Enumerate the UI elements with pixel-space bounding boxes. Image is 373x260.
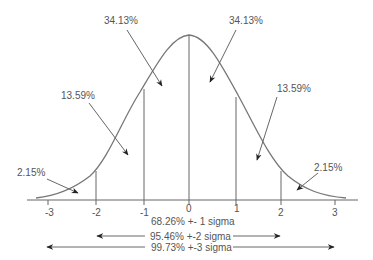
label-two-sigma: 95.46% +-2 sigma (150, 231, 231, 242)
label-center-left: 34.13% (104, 15, 138, 26)
label-tail-left: 2.15% (17, 167, 45, 178)
arrow-mid-left (89, 103, 128, 155)
tick-label: -3 (45, 207, 54, 218)
label-three-sigma: 99.73% +-3 sigma (151, 242, 232, 253)
label-tail-right: 2.15% (314, 162, 342, 173)
tick-label: 1 (234, 203, 240, 214)
tick-label: -2 (92, 207, 101, 218)
label-one-sigma: 68.26% +- 1 sigma (151, 216, 235, 227)
tick-label: 2 (278, 207, 284, 218)
label-mid-right: 13.59% (277, 83, 311, 94)
normal-distribution-diagram: -3 -2 -1 0 1 2 3 34.13% 34.13% 13.59% 13… (0, 0, 373, 260)
label-mid-left: 13.59% (61, 90, 95, 101)
arrow-tail-left (47, 179, 78, 193)
bell-curve (36, 35, 346, 198)
tick-label: 0 (186, 203, 192, 214)
arrow-mid-right (257, 97, 277, 160)
arrow-center-left (127, 30, 162, 86)
label-center-right: 34.13% (229, 15, 263, 26)
tick-label: -1 (140, 207, 149, 218)
arrow-center-right (210, 30, 236, 82)
arrow-tail-right (297, 173, 318, 190)
tick-label: 3 (332, 207, 338, 218)
